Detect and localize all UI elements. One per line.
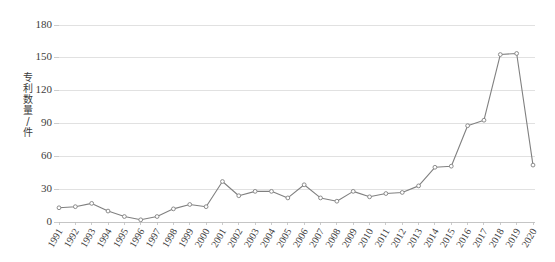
y-axis-tick-label: 60 — [41, 149, 53, 161]
series-data-point — [433, 165, 437, 169]
x-axis-tick-label: 1999 — [176, 227, 196, 250]
series-data-point — [400, 191, 404, 195]
x-axis-tick-label: 2011 — [372, 227, 391, 250]
x-axis-tick-label: 2000 — [192, 227, 212, 250]
y-axis-tick-label: 180 — [36, 18, 53, 30]
y-axis-title: 专利数量/件 — [23, 71, 33, 138]
series-data-point — [139, 218, 143, 222]
series-data-point — [90, 201, 94, 205]
y-axis-tick-label: 150 — [36, 50, 53, 62]
y-axis-tick-label: 0 — [47, 215, 53, 227]
series-data-point — [57, 206, 61, 210]
x-axis-tick-label: 2018 — [487, 226, 507, 249]
x-axis-tick-label: 2013 — [405, 227, 425, 250]
y-axis-tick-label: 90 — [41, 116, 53, 128]
x-axis-tick-label: 1998 — [160, 227, 180, 250]
series-data-point — [155, 215, 159, 219]
x-axis-tick-label: 1993 — [78, 227, 98, 250]
series-data-point — [172, 207, 176, 211]
series-data-point — [122, 215, 126, 219]
series-data-point — [302, 183, 306, 187]
x-axis-tick-label: 2006 — [290, 227, 310, 250]
series-data-point — [270, 189, 274, 193]
x-axis-tick-label: 2016 — [454, 227, 474, 250]
series-data-point — [531, 163, 535, 167]
x-axis-tick-label: 2019 — [503, 227, 523, 250]
series-data-point — [237, 194, 241, 198]
x-axis-tick-label: 1994 — [94, 227, 114, 250]
x-axis-tick-label: 2012 — [388, 227, 408, 250]
x-axis-tick-label: 2003 — [241, 227, 261, 250]
series-data-point — [204, 205, 208, 209]
series-data-point — [368, 195, 372, 199]
series-data-point — [417, 184, 421, 188]
x-axis-tick-label: 2010 — [356, 227, 376, 250]
x-axis-tick-label: 2001 — [209, 227, 229, 250]
series-data-point — [351, 189, 355, 193]
x-axis-tick-label: 2020 — [519, 227, 539, 250]
series-data-point — [449, 164, 453, 168]
x-axis-tick-label: 2005 — [274, 227, 294, 250]
x-axis-tick-label: 1992 — [62, 227, 82, 250]
x-axis-tick-label: 2015 — [437, 227, 457, 250]
x-axis-tick-label: 1996 — [127, 227, 147, 250]
series-data-point — [253, 189, 257, 193]
series-data-point — [384, 192, 388, 196]
series-data-point — [319, 196, 323, 200]
x-axis-tick-label: 2009 — [339, 227, 359, 250]
x-axis-tick-label: 2007 — [307, 227, 327, 250]
gridlines-group — [59, 25, 535, 189]
series-data-point — [188, 203, 192, 207]
series-data-point — [515, 52, 519, 56]
series-data-point — [286, 196, 290, 200]
chart-container: 0306090120150180 19911992199319941995199… — [0, 0, 555, 262]
y-axis-tick-label: 120 — [36, 83, 53, 95]
x-axis-tick-label: 1991 — [45, 227, 65, 250]
series-data-point — [482, 118, 486, 122]
x-axis-tick-label: 2008 — [323, 227, 343, 250]
y-axis-tick-labels: 0306090120150180 — [36, 18, 60, 227]
series-data-point — [335, 199, 339, 203]
x-axis-tick-label: 1995 — [111, 227, 131, 250]
line-chart: 0306090120150180 19911992199319941995199… — [0, 0, 555, 262]
series-data-point — [221, 180, 225, 184]
series-data-point — [498, 53, 502, 57]
x-axis-tick-label: 1997 — [143, 227, 163, 250]
y-axis-tick-label: 30 — [41, 182, 53, 194]
x-axis-tick-labels: 1991199219931994199519961997199819992000… — [45, 226, 539, 249]
series-data-point — [106, 209, 110, 213]
series-line-patent-count — [59, 53, 533, 219]
x-axis-tick-label: 2002 — [225, 226, 245, 249]
series-data-point — [73, 205, 77, 209]
x-axis-tick-label: 2017 — [470, 227, 490, 250]
x-axis-tick-label: 2004 — [258, 227, 278, 250]
x-axis-tick-label: 2014 — [421, 227, 441, 250]
series-data-point — [466, 124, 470, 128]
